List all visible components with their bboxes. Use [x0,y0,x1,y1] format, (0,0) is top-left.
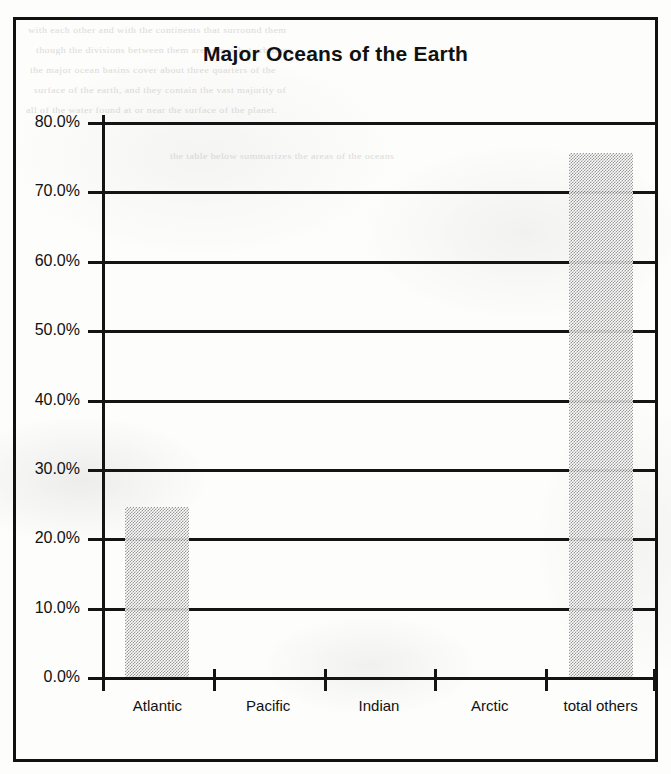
y-axis-label: 70.0% [35,182,80,200]
x-axis-category-label: Indian [359,697,400,714]
x-axis-tick [434,669,437,691]
y-axis-tick [88,608,116,611]
x-axis-tick [213,669,216,691]
plot-area: 0.0%10.0%20.0%30.0%40.0%50.0%60.0%70.0%8… [102,122,656,677]
y-axis-tick [88,538,116,541]
scanned-page: with each other and with the continents … [0,0,671,774]
x-axis-category-label: total others [563,697,637,714]
y-axis-line [102,115,105,677]
x-axis-category-label: Pacific [246,697,290,714]
y-axis-tick [88,191,116,194]
y-axis-label: 0.0% [44,668,80,686]
x-axis-tick [653,669,656,691]
y-axis-label: 40.0% [35,391,80,409]
x-axis-baseline [102,677,656,680]
x-axis-category-label: Arctic [471,697,509,714]
y-axis-tick [88,400,116,403]
y-axis-label: 30.0% [35,460,80,478]
chart-frame: Major Oceans of the Earth 0.0%10.0%20.0%… [13,17,658,762]
x-axis-tick [324,669,327,691]
y-axis-tick [88,122,116,125]
y-axis-label: 60.0% [35,252,80,270]
y-axis-label: 20.0% [35,529,80,547]
x-axis-category-label: Atlantic [133,697,182,714]
bar-atlantic[interactable] [125,507,189,677]
bar-total-others[interactable] [569,153,633,677]
y-axis-label: 50.0% [35,321,80,339]
y-axis-label: 80.0% [35,113,80,131]
x-axis-tick [102,669,105,691]
y-axis-label: 10.0% [35,599,80,617]
chart-title: Major Oceans of the Earth [16,42,655,66]
x-axis-tick [545,669,548,691]
y-axis-tick [88,330,116,333]
y-axis-tick [88,261,116,264]
y-axis-tick [88,469,116,472]
gridline [102,122,656,125]
